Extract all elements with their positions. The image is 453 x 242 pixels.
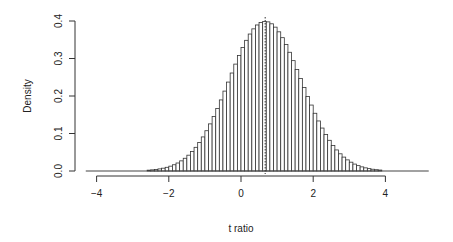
histogram-bar xyxy=(176,163,180,171)
histogram-bar xyxy=(194,147,198,171)
x-axis-title: t ratio xyxy=(228,223,253,234)
x-tick-label: 4 xyxy=(383,188,389,199)
histogram-bar xyxy=(335,150,339,171)
histogram-bar xyxy=(216,108,220,171)
histogram-bar xyxy=(230,73,234,171)
histogram-bar xyxy=(295,69,299,171)
histogram-bar xyxy=(357,166,361,171)
histogram-bar xyxy=(237,56,241,171)
histogram-bar xyxy=(180,161,184,171)
histogram-bar xyxy=(306,96,310,171)
histogram-bar xyxy=(349,162,353,171)
y-axis-title: Density xyxy=(22,79,33,112)
y-tick-label: 0.2 xyxy=(53,89,64,103)
histogram-bar xyxy=(252,29,256,171)
histogram-bar xyxy=(346,160,350,171)
histogram-bar xyxy=(360,167,364,171)
histogram-bar xyxy=(313,113,317,171)
histogram-bar xyxy=(302,88,306,172)
histogram-bar xyxy=(169,166,173,171)
histogram-bar xyxy=(212,116,216,171)
histogram-bar xyxy=(299,78,303,171)
y-axis: 0.00.10.20.30.4 xyxy=(53,14,75,178)
histogram-bar xyxy=(263,21,267,171)
histogram-bar xyxy=(273,27,277,171)
histogram-bar xyxy=(187,155,191,171)
histogram-bar xyxy=(353,164,357,171)
histogram-bar xyxy=(219,100,223,171)
histogram-bar xyxy=(227,82,231,171)
density-histogram-chart: 0.00.10.20.30.4 −4−2024 Density t ratio xyxy=(0,0,453,242)
histogram-bar xyxy=(320,128,324,171)
histogram-bar xyxy=(270,24,274,171)
histogram-bar xyxy=(324,135,328,171)
y-tick-label: 0.3 xyxy=(53,51,64,65)
y-tick-label: 0.4 xyxy=(53,14,64,28)
x-axis: −4−2024 xyxy=(91,176,389,199)
histogram-bar xyxy=(266,22,270,171)
histogram-bar xyxy=(190,152,194,171)
histogram-bar xyxy=(277,32,281,171)
histogram-bar xyxy=(248,34,252,171)
histogram-bar xyxy=(338,154,342,171)
histogram-bar xyxy=(198,142,202,171)
x-tick-label: 2 xyxy=(310,188,316,199)
x-tick-label: −2 xyxy=(163,188,175,199)
histogram-bar xyxy=(331,145,335,171)
histogram-bar xyxy=(310,105,314,171)
histogram-bar xyxy=(209,124,213,171)
x-tick-label: 0 xyxy=(238,188,244,199)
histogram-bar xyxy=(201,137,205,171)
histogram-bar xyxy=(241,48,245,171)
histogram-bar xyxy=(342,157,346,171)
histogram-bar xyxy=(234,64,238,171)
histogram-bar xyxy=(259,22,263,171)
histogram-bar xyxy=(223,91,227,171)
histogram-bar xyxy=(288,52,292,171)
histogram-bar xyxy=(172,165,176,171)
histogram-bar xyxy=(183,158,187,171)
x-tick-label: −4 xyxy=(91,188,103,199)
y-tick-label: 0.0 xyxy=(53,164,64,178)
histogram-bars xyxy=(147,21,382,171)
histogram-bar xyxy=(281,38,285,171)
histogram-bar xyxy=(205,131,209,171)
histogram-bar xyxy=(317,121,321,171)
y-tick-label: 0.1 xyxy=(53,126,64,140)
histogram-bar xyxy=(255,25,259,171)
histogram-bar xyxy=(292,61,296,171)
histogram-bar xyxy=(284,45,288,171)
histogram-bar xyxy=(245,40,249,171)
histogram-bar xyxy=(328,140,332,171)
